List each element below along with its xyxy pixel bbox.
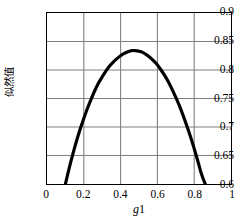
x-tick-label: 0.4 — [100, 189, 140, 201]
y-axis-title: 似然值 — [4, 59, 15, 105]
x-tick-label: 0.6 — [138, 189, 178, 201]
y-tick-label: 0.8 — [195, 64, 239, 76]
y-tick-label: 0.85 — [195, 35, 239, 47]
x-tick-label: 0 — [26, 189, 66, 201]
x-tick-label: 0.2 — [63, 189, 103, 201]
x-tick-label: 1 — [212, 189, 239, 201]
y-tick-label: 0.65 — [195, 150, 239, 162]
likelihood-chart-figure: 0.60.650.70.750.80.850.9 00.20.40.60.81 … — [0, 0, 239, 220]
x-axis-tick-labels: 00.20.40.60.81 — [0, 189, 239, 203]
y-tick-label: 0.7 — [195, 121, 239, 133]
y-tick-label: 0.9 — [195, 6, 239, 18]
curve-path — [65, 51, 205, 184]
x-axis-title: g1 — [46, 203, 232, 216]
x-tick-label: 0.8 — [175, 189, 215, 201]
y-tick-label: 0.75 — [195, 93, 239, 105]
x-axis-title-subscript: 1 — [139, 202, 145, 216]
